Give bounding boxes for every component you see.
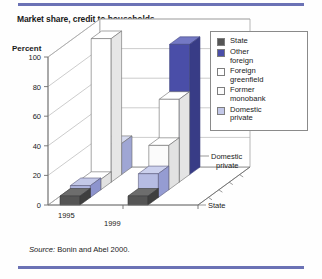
legend-item-state: State [217, 37, 307, 46]
legend-label-foreign-greenfield: Foreign greenfield [230, 67, 263, 84]
ytick-80: 80 [33, 83, 41, 92]
legend-swatch-former-monobank [217, 87, 225, 95]
legend-label-state: State [230, 37, 248, 46]
legend-label-former-monobank: Former monobank [230, 86, 265, 103]
figure-panel: Market share, credit to households Perce… [0, 0, 322, 279]
ytick-60: 60 [33, 112, 41, 121]
callout-private: private [216, 161, 239, 170]
callout-domestic: Domestic [211, 152, 243, 161]
legend-swatch-state [217, 38, 225, 46]
row-axis: 1995 1999 [48, 205, 198, 228]
ytick-20: 20 [33, 171, 41, 180]
legend-label-other-foreign: Other foreign [230, 48, 253, 65]
legend-item-former-monobank: Former monobank [217, 86, 307, 103]
legend-label-domestic-private: Domestic private [230, 106, 262, 123]
legend-item-foreign-greenfield: Foreign greenfield [217, 67, 307, 84]
legend-item-domestic-private: Domestic private [217, 106, 307, 123]
row-label-1999: 1999 [104, 219, 121, 228]
source-note: Source: Bonin and Abel 2000. [29, 245, 130, 254]
ytick-0: 0 [37, 201, 41, 210]
source-text: Bonin and Abel 2000. [55, 245, 129, 254]
row-label-1995: 1995 [58, 211, 75, 220]
callout-state: State [208, 201, 226, 210]
ytick-40: 40 [33, 142, 41, 151]
legend-swatch-foreign-greenfield [217, 68, 225, 76]
legend-swatch-other-foreign [217, 49, 225, 57]
ytick-100: 100 [28, 53, 41, 62]
bar-1995-former-monobank [91, 31, 121, 182]
source-prefix: Source: [29, 245, 55, 254]
chart-legend: State Other foreign Foreign greenfield F… [210, 31, 308, 131]
legend-swatch-domestic-private [217, 107, 225, 115]
y-axis: 0 20 40 60 80 100 [28, 53, 48, 210]
legend-item-other-foreign: Other foreign [217, 48, 307, 65]
